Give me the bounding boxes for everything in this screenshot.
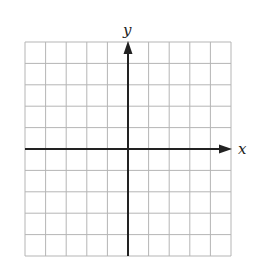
coordinate-grid: x y bbox=[0, 0, 257, 267]
y-axis-label: y bbox=[122, 21, 132, 39]
y-axis-arrow-icon bbox=[124, 41, 133, 54]
axes bbox=[25, 41, 232, 256]
x-axis-label: x bbox=[238, 140, 247, 158]
x-axis-arrow-icon bbox=[219, 145, 232, 154]
